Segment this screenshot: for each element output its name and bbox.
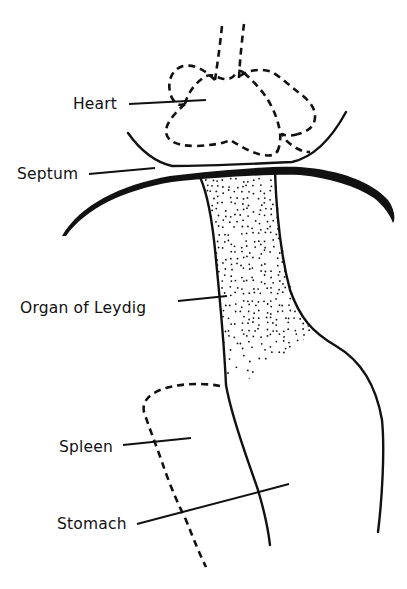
stipple-dot: [207, 280, 209, 282]
stipple-dot: [242, 203, 244, 205]
stipple-dot: [236, 263, 238, 265]
stipple-dot: [278, 274, 280, 276]
stipple-dot: [295, 271, 297, 273]
stipple-dot: [307, 300, 309, 302]
stipple-dot: [264, 274, 266, 276]
stipple-dot: [249, 361, 251, 363]
stipple-dot: [206, 243, 208, 245]
stipple-dot: [243, 257, 245, 259]
stipple-dot: [290, 354, 292, 356]
stipple-dot: [207, 184, 209, 186]
stipple-dot: [303, 233, 305, 235]
stipple-dot: [263, 202, 265, 204]
stipple-dot: [287, 358, 289, 360]
stipple-dot: [315, 270, 317, 272]
stomach-label: Stomach: [57, 515, 127, 533]
stipple-dot: [241, 251, 243, 253]
spleen-leader-line: [123, 438, 191, 445]
stipple-dot: [255, 304, 257, 306]
stipple-dot: [254, 330, 256, 332]
stipple-dot: [228, 240, 230, 242]
stipple-dot: [269, 370, 271, 372]
septum-band: [62, 167, 394, 236]
stipple-dot: [285, 317, 287, 319]
stipple-dot: [312, 238, 314, 240]
stipple-dot: [294, 228, 296, 230]
stipple-dot: [221, 179, 223, 181]
stipple-dot: [296, 202, 298, 204]
stipple-dot: [242, 322, 244, 324]
stipple-dot: [217, 316, 219, 318]
stipple-dot: [213, 180, 215, 182]
stipple-dot: [199, 265, 201, 267]
stipple-dot: [284, 229, 286, 231]
stipple-dot: [243, 355, 245, 357]
stipple-dot: [308, 211, 310, 213]
stipple-dot: [260, 336, 262, 338]
stipple-dot: [247, 226, 249, 228]
stipple-dot: [295, 330, 297, 332]
stipple-dot: [308, 318, 310, 320]
stipple-dot: [222, 262, 224, 264]
stipple-dot: [217, 202, 219, 204]
stipple-dot: [283, 202, 285, 204]
stipple-dot: [236, 197, 238, 199]
stipple-dot: [248, 319, 250, 321]
organ-of-leydig-label: Organ of Leydig: [20, 299, 146, 317]
stipple-dot: [295, 276, 297, 278]
stipple-dot: [225, 216, 227, 218]
stipple-dot: [198, 312, 200, 314]
stipple-dot: [246, 245, 248, 247]
stipple-dot: [247, 197, 249, 199]
stipple-dot: [242, 219, 244, 221]
stipple-dot: [230, 216, 232, 218]
stipple-dot: [294, 219, 296, 221]
stipple-dot: [297, 340, 299, 342]
stipple-dot: [279, 379, 281, 381]
stipple-dot: [247, 215, 249, 217]
stipple-dot: [242, 348, 244, 350]
stipple-dot: [306, 359, 308, 361]
stipple-dot: [251, 300, 253, 302]
stipple-dot: [305, 353, 307, 355]
stipple-dot: [235, 178, 237, 180]
stipple-dot: [294, 216, 296, 218]
stipple-dot: [308, 256, 310, 258]
stipple-dot: [313, 178, 315, 180]
stipple-dot: [209, 280, 211, 282]
stipple-dot: [211, 317, 213, 319]
stipple-dot: [314, 343, 316, 345]
stipple-dot: [295, 234, 297, 236]
stipple-dot: [205, 217, 207, 219]
stipple-dot: [283, 340, 285, 342]
anatomy-diagram: Heart Septum Organ of Leydig Spleen Stom…: [0, 0, 407, 589]
stipple-dot: [306, 286, 308, 288]
stipple-dot: [270, 292, 272, 294]
stipple-dot: [295, 190, 297, 192]
stipple-dot: [205, 261, 207, 263]
stipple-dot: [279, 252, 281, 254]
stipple-dot: [199, 252, 201, 254]
stipple-dot: [258, 178, 260, 180]
stipple-dot: [241, 329, 243, 331]
stipple-dot: [227, 372, 229, 374]
stipple-dot: [237, 258, 239, 260]
stipple-dot: [289, 220, 291, 222]
stipple-dot: [245, 184, 247, 186]
stipple-dot: [284, 220, 286, 222]
stipple-dot: [248, 311, 250, 313]
stipple-dot: [282, 238, 284, 240]
stipple-dot: [309, 229, 311, 231]
stipple-dot: [306, 262, 308, 264]
heart-outline: [166, 24, 315, 156]
stipple-dot: [209, 190, 211, 192]
stipple-dot: [269, 199, 271, 201]
stipple-dot: [313, 193, 315, 195]
stipple-dot: [216, 298, 218, 300]
stipple-dot: [225, 268, 227, 270]
stipple-dot: [303, 274, 305, 276]
stipple-dot: [206, 305, 208, 307]
stipple-dot: [233, 336, 235, 338]
stipple-dot: [295, 333, 297, 335]
stipple-dot: [207, 293, 209, 295]
